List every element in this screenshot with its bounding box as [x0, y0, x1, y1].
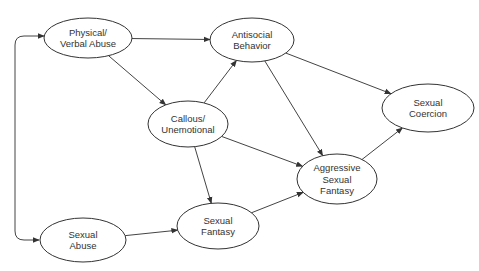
node-label: Antisocial: [232, 29, 273, 40]
node-label: Sexual: [203, 215, 232, 226]
node-label: Callous/: [171, 113, 206, 124]
node-cu: Callous/Unemotional: [148, 101, 228, 147]
node-asb: AntisocialBehavior: [210, 18, 294, 62]
node-label: Sexual: [68, 229, 97, 240]
node-label: Verbal Abuse: [60, 38, 116, 49]
node-asf: AggressiveSexualFantasy: [297, 154, 377, 204]
node-label: Abuse: [70, 240, 97, 251]
node-label: Physical/: [69, 27, 107, 38]
edge-asf-to-sc: [362, 128, 402, 160]
edge-sa-to-sf: [125, 230, 178, 235]
node-label: Coercion: [409, 108, 447, 119]
node-label: Unemotional: [161, 124, 214, 135]
node-pva: Physical/Verbal Abuse: [44, 18, 132, 58]
edge-pva-to-cu: [109, 56, 166, 105]
node-label: Sexual: [413, 97, 442, 108]
node-label: Fantasy: [201, 226, 235, 237]
node-label: Sexual: [322, 174, 351, 185]
edge-asb-to-sc: [286, 53, 391, 94]
node-sc: SexualCoercion: [382, 84, 474, 132]
edge-pva-to-asb: [132, 39, 210, 40]
node-label: Behavior: [233, 40, 271, 51]
nodes-layer: Physical/Verbal AbuseAntisocialBehaviorC…: [40, 18, 474, 262]
edge-cu-to-asb: [204, 60, 236, 103]
node-sa: SexualAbuse: [40, 218, 126, 262]
node-label: Fantasy: [320, 185, 354, 196]
edge-cu-to-sf: [195, 147, 212, 204]
edge-sf-to-asf: [252, 192, 304, 212]
edge-cu-to-asf: [222, 136, 303, 166]
path-diagram: Physical/Verbal AbuseAntisocialBehaviorC…: [0, 0, 479, 271]
node-label: Aggressive: [314, 162, 361, 173]
edges-layer: [109, 39, 403, 236]
node-sf: SexualFantasy: [177, 203, 259, 249]
edge-asb-to-asf: [265, 61, 323, 156]
correlation-bracket: [15, 36, 44, 240]
